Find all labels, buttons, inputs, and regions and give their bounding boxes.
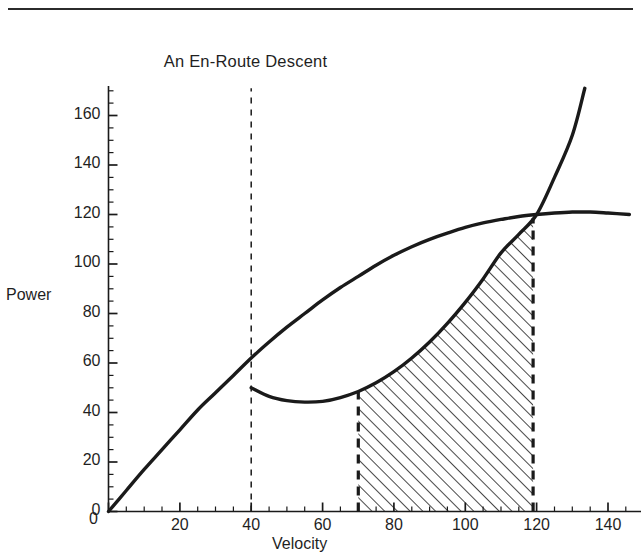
x-tick-label: 100: [442, 516, 488, 534]
y-tick-label: 140: [55, 154, 101, 172]
x-tick-label: 80: [371, 516, 417, 534]
y-tick-label: 120: [55, 204, 101, 222]
x-tick-label: 140: [585, 516, 631, 534]
chart-canvas: [0, 0, 641, 560]
x-tick-label: 120: [514, 516, 560, 534]
y-tick-label: 40: [55, 402, 101, 420]
chart-title-text: An En-Route Descent: [164, 52, 327, 70]
excess-power-region: [358, 219, 533, 512]
x-tick-label: 60: [300, 516, 346, 534]
y-tick-label: 100: [55, 253, 101, 271]
y-tick-label: 60: [55, 352, 101, 370]
x-tick-label: 40: [228, 516, 274, 534]
x-tick-label: 20: [157, 516, 203, 534]
x-tick-label: 0: [71, 510, 117, 528]
y-tick-label: 80: [55, 303, 101, 321]
y-axis-label: Power: [6, 286, 51, 304]
y-tick-label: 160: [55, 105, 101, 123]
y-tick-label: 20: [55, 451, 101, 469]
page-root: An En-Route Descent Power Velocity 16014…: [0, 0, 641, 560]
x-axis-label: Velocity: [272, 535, 327, 553]
figure-en-route-descent: An En-Route Descent Power Velocity 16014…: [0, 0, 641, 560]
chart-title: An En-Route Descent: [0, 52, 641, 71]
